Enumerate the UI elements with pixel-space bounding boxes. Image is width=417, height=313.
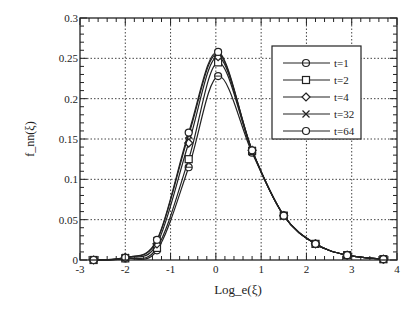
x-axis-label: Log_e(ξ) [214,282,262,297]
x-tick-label: 0 [213,263,219,275]
y-axis-label: f_nn(ξ) [23,121,37,156]
legend-label: t=64 [334,125,355,137]
y-tick-label: 0.05 [59,214,79,226]
legend-label: t=4 [334,91,349,103]
x-tick-label: 2 [304,263,310,275]
x-tick-label: -1 [166,263,175,275]
y-tick-label: 0.25 [59,52,79,64]
y-tick-label: 0.1 [64,173,78,185]
y-tick-label: 0.3 [64,12,78,24]
legend-label: t=2 [334,74,349,86]
x-tick-label: 4 [394,263,400,275]
x-tick-label: -3 [75,263,85,275]
legend-label: t=32 [334,108,354,120]
y-tick-labels: 00.050.10.150.20.250.3 [59,12,79,266]
legend-label: t=1 [334,57,349,69]
legend: t=1t=2t=4t=32t=64 [272,46,361,139]
y-tick-label: 0.15 [59,133,79,145]
x-tick-label: 3 [349,263,355,275]
x-tick-label: -2 [121,263,130,275]
chart: 00.050.10.150.20.250.3 -3-2-101234 f_nn(… [0,0,417,313]
x-tick-label: 1 [258,263,264,275]
x-tick-labels: -3-2-101234 [75,263,400,275]
y-tick-label: 0.2 [64,93,78,105]
